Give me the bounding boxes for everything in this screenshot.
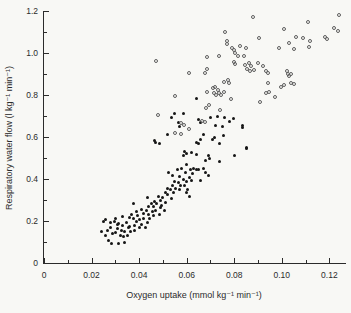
data-point-filled xyxy=(138,226,141,229)
data-point-filled xyxy=(207,174,210,177)
y-major-tick xyxy=(44,137,49,138)
x-minor-tick xyxy=(68,260,69,263)
data-point-filled xyxy=(180,167,183,170)
data-point-filled xyxy=(157,195,160,198)
data-point-filled xyxy=(188,195,191,198)
data-point-open xyxy=(205,90,209,94)
y-major-tick xyxy=(44,53,49,54)
data-point-open xyxy=(261,64,265,68)
data-point-open xyxy=(292,82,296,86)
data-point-filled xyxy=(147,213,150,216)
data-point-open xyxy=(238,44,242,48)
x-tick-label: 0.08 xyxy=(226,270,243,280)
data-point-open xyxy=(306,20,310,24)
data-point-open xyxy=(337,13,341,17)
data-point-filled xyxy=(232,117,235,120)
data-point-open xyxy=(204,106,208,110)
data-point-filled xyxy=(169,188,172,191)
y-major-tick xyxy=(44,95,49,96)
data-point-open xyxy=(230,46,234,50)
y-major-tick xyxy=(44,221,49,222)
data-point-filled xyxy=(202,133,205,136)
data-point-filled xyxy=(154,209,157,212)
data-point-filled xyxy=(142,212,145,215)
data-point-filled xyxy=(173,180,176,183)
data-point-open xyxy=(257,36,261,40)
data-point-filled xyxy=(190,151,193,154)
data-point-filled xyxy=(152,205,155,208)
data-point-filled xyxy=(185,163,188,166)
data-point-filled xyxy=(152,214,155,217)
data-point-filled xyxy=(191,172,194,175)
data-point-filled xyxy=(178,188,181,191)
data-point-filled xyxy=(190,179,193,182)
data-point-filled xyxy=(117,242,120,245)
data-point-filled xyxy=(241,126,244,129)
data-point-open xyxy=(187,127,191,131)
data-point-filled xyxy=(209,116,212,119)
data-point-open xyxy=(207,103,211,107)
y-major-tick xyxy=(44,11,49,12)
data-point-filled xyxy=(197,142,200,145)
x-tick-label: 0 xyxy=(42,270,47,280)
data-point-filled xyxy=(125,221,128,224)
data-point-open xyxy=(223,30,227,34)
y-tick-label: 0.2 xyxy=(8,216,38,226)
data-point-open xyxy=(173,131,177,135)
data-point-filled xyxy=(130,213,133,216)
data-point-filled xyxy=(221,125,224,128)
data-point-filled xyxy=(158,142,161,145)
data-point-filled xyxy=(160,204,163,207)
data-point-open xyxy=(301,36,305,40)
data-point-filled xyxy=(122,235,125,238)
data-point-filled xyxy=(126,234,129,237)
data-point-filled xyxy=(241,124,244,127)
data-point-open xyxy=(154,59,158,63)
data-point-open xyxy=(227,81,231,85)
x-major-tick xyxy=(329,258,330,263)
data-point-filled xyxy=(140,208,143,211)
data-point-filled xyxy=(146,196,149,199)
data-point-filled xyxy=(151,210,154,213)
x-axis-label: Oxygen uptake (mmol kg⁻¹ min⁻¹) xyxy=(126,290,262,300)
data-point-filled xyxy=(211,138,214,141)
data-point-filled xyxy=(109,221,112,224)
data-point-filled xyxy=(120,229,123,232)
x-major-tick xyxy=(282,258,283,263)
data-point-open xyxy=(256,61,260,65)
data-point-open xyxy=(222,90,226,94)
data-point-filled xyxy=(185,180,188,183)
data-point-open xyxy=(267,90,271,94)
data-point-filled xyxy=(128,216,131,219)
data-point-filled xyxy=(195,97,198,100)
y-tick-label: 1.0 xyxy=(8,48,38,58)
data-point-open xyxy=(325,37,329,41)
data-point-open xyxy=(258,100,262,104)
data-point-open xyxy=(287,74,291,78)
data-point-filled xyxy=(110,242,113,245)
data-point-filled xyxy=(171,184,174,187)
data-point-open xyxy=(242,54,246,58)
data-point-filled xyxy=(233,154,236,157)
data-point-filled xyxy=(182,112,185,115)
x-major-tick xyxy=(92,258,93,263)
data-point-open xyxy=(236,54,240,58)
data-point-open xyxy=(264,69,268,73)
x-major-tick xyxy=(139,258,140,263)
data-point-filled xyxy=(166,193,169,196)
data-point-open xyxy=(182,123,186,127)
data-point-filled xyxy=(107,239,110,242)
data-point-filled xyxy=(148,217,151,220)
data-point-filled xyxy=(163,209,166,212)
data-point-open xyxy=(277,46,281,50)
data-point-filled xyxy=(199,138,202,141)
data-point-filled xyxy=(199,179,202,182)
data-point-filled xyxy=(147,205,150,208)
data-point-filled xyxy=(158,213,161,216)
data-point-filled xyxy=(166,133,169,136)
data-point-filled xyxy=(123,230,126,233)
data-point-filled xyxy=(155,202,158,205)
data-point-filled xyxy=(117,222,120,225)
data-point-filled xyxy=(138,218,141,221)
data-point-filled xyxy=(170,197,173,200)
